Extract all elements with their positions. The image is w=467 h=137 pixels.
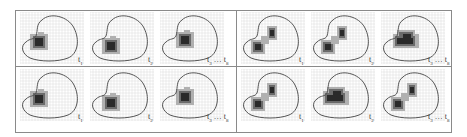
time-label: t2 (369, 56, 374, 68)
time-label: t3 … t8 (428, 113, 449, 125)
time-label: t3 … t8 (207, 56, 228, 68)
heatmap-plot (241, 12, 305, 64)
time-label: t2 (148, 113, 153, 125)
time-label: t3 … t8 (207, 113, 228, 125)
heatmap-plot (20, 69, 84, 121)
heatmap-plot (90, 69, 154, 121)
group-divider (236, 10, 237, 133)
time-label: t1 (299, 56, 304, 68)
time-label: t3 … t8 (428, 56, 449, 68)
time-label: t2 (148, 56, 153, 68)
heatmap-plot (311, 12, 375, 64)
time-label: t1 (78, 113, 83, 125)
heatmap-plot (90, 12, 154, 64)
heatmap-plot (20, 12, 84, 64)
heatmap-plot (311, 69, 375, 121)
heatmap-plot (241, 69, 305, 121)
time-label: t1 (299, 113, 304, 125)
time-label: t1 (78, 56, 83, 68)
time-label: t2 (369, 113, 374, 125)
